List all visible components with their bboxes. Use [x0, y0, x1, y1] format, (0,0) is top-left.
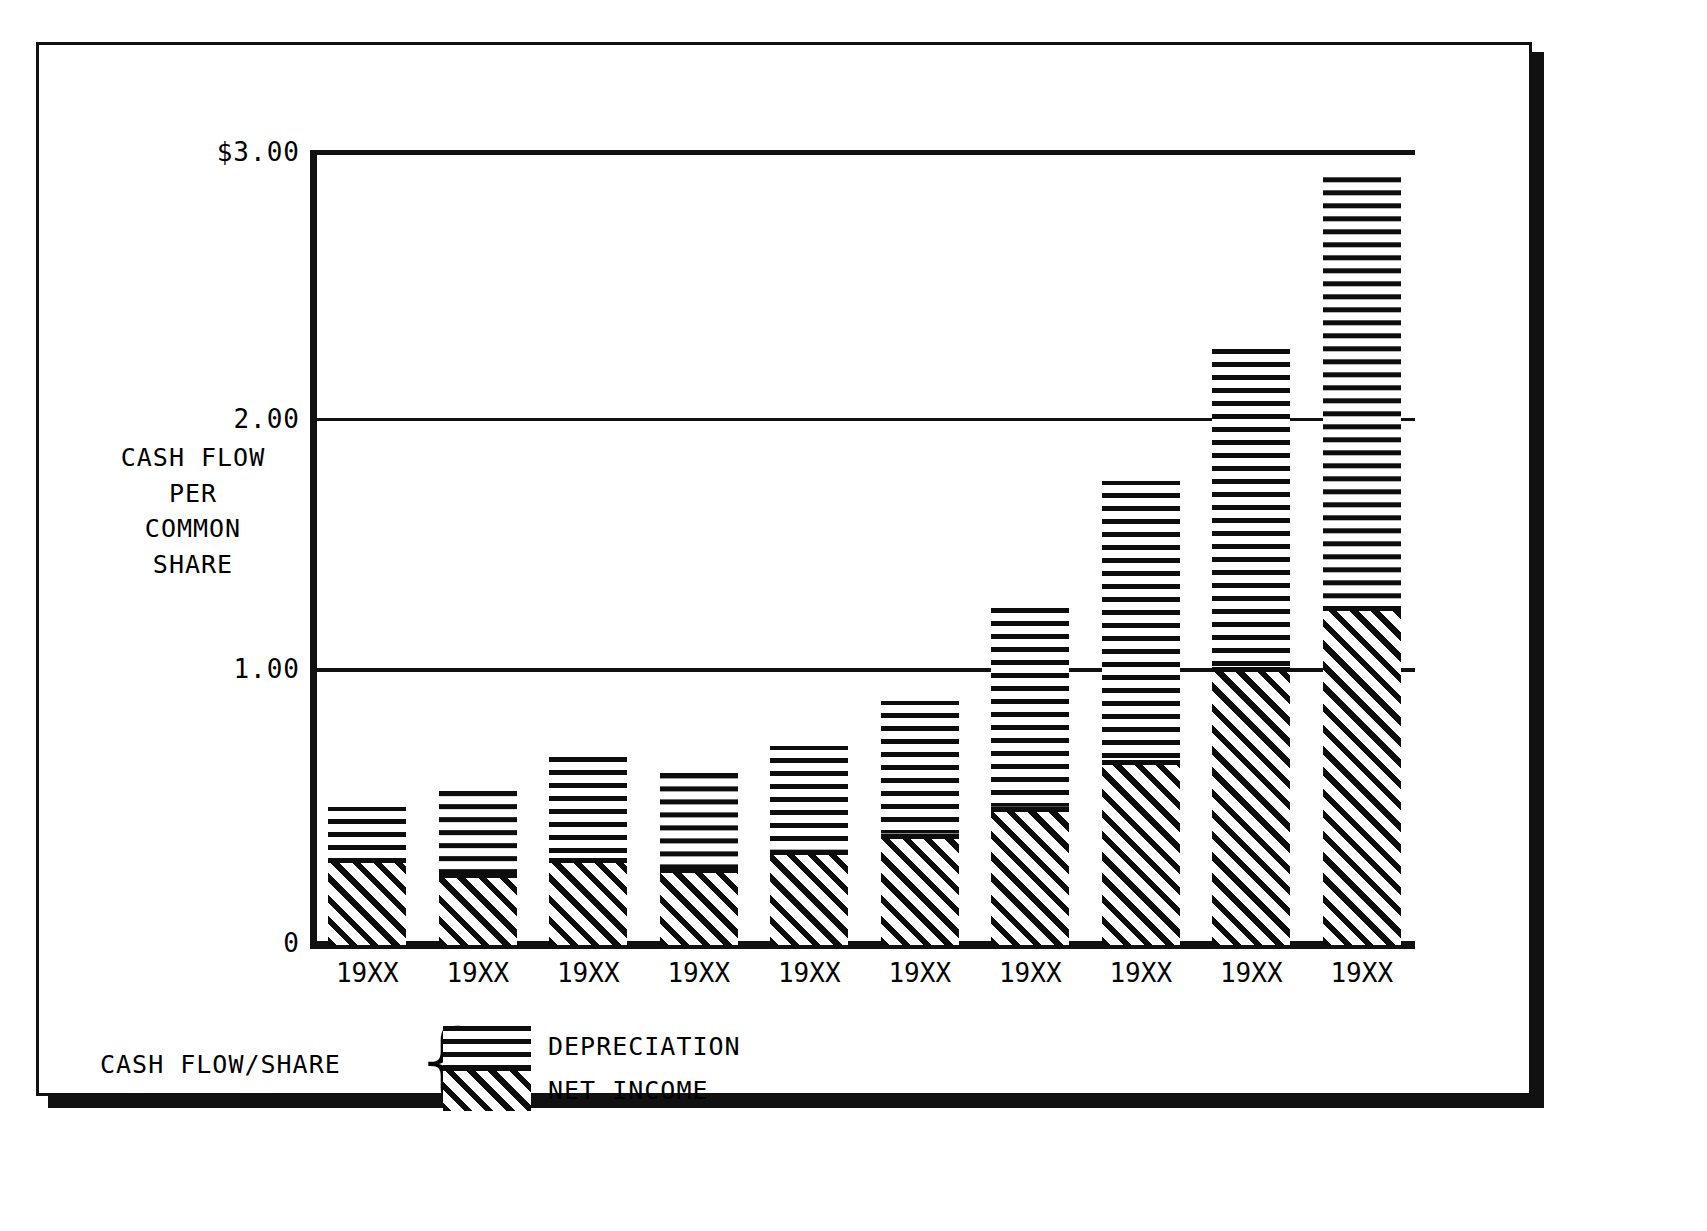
bar-6 — [881, 701, 959, 945]
legend-swatch-net-income-icon — [443, 1066, 531, 1111]
bar-chart-plot: $3.00 2.00 1.00 0 CASH FLOW PER COMMON S… — [0, 0, 1707, 1231]
bar-3-net-income-segment — [549, 858, 627, 945]
x-tick-label-5: 19XX — [754, 958, 864, 988]
bar-7-depreciation-segment — [991, 608, 1069, 807]
bar-9-net-income-segment — [1212, 667, 1290, 945]
bar-10 — [1323, 177, 1401, 946]
bar-1-depreciation-segment — [328, 807, 406, 857]
y-axis-title-line-2: PER — [78, 476, 308, 512]
bar-10-net-income-segment — [1323, 606, 1401, 945]
bar-1 — [328, 807, 406, 945]
bar-5 — [770, 746, 848, 945]
bar-5-depreciation-segment — [770, 746, 848, 849]
x-tick-label-2: 19XX — [423, 958, 533, 988]
bar-6-net-income-segment — [881, 834, 959, 945]
x-tick-label-9: 19XX — [1196, 958, 1306, 988]
y-tick-label-0: 0 — [125, 930, 300, 956]
bar-3-depreciation-segment — [549, 757, 627, 858]
bar-6-depreciation-segment — [881, 701, 959, 834]
bar-8 — [1102, 481, 1180, 945]
legend-title: CASH FLOW/SHARE — [100, 1050, 341, 1079]
bar-10-depreciation-segment — [1323, 177, 1401, 606]
bar-8-depreciation-segment — [1102, 481, 1180, 759]
y-axis-title-line-4: SHARE — [78, 547, 308, 583]
x-tick-label-7: 19XX — [975, 958, 1085, 988]
bar-4 — [660, 773, 738, 945]
bar-3 — [549, 757, 627, 945]
bar-1-net-income-segment — [328, 858, 406, 945]
legend-label-depreciation: DEPRECIATION — [548, 1032, 741, 1061]
bar-7 — [991, 608, 1069, 945]
bar-2 — [439, 791, 517, 945]
legend: CASH FLOW/SHARE { DEPRECIATION NET INCOM… — [100, 1018, 720, 1113]
y-tick-label-1: 1.00 — [125, 656, 300, 682]
bar-9-depreciation-segment — [1212, 349, 1290, 667]
x-tick-label-3: 19XX — [533, 958, 643, 988]
y-axis-title: CASH FLOW PER COMMON SHARE — [78, 440, 308, 582]
x-tick-label-8: 19XX — [1086, 958, 1196, 988]
legend-label-net-income: NET INCOME — [548, 1076, 709, 1105]
bar-4-net-income-segment — [660, 868, 738, 945]
bar-5-net-income-segment — [770, 850, 848, 945]
bar-2-depreciation-segment — [439, 791, 517, 873]
y-tick-label-2: 2.00 — [125, 406, 300, 432]
x-tick-label-10: 19XX — [1307, 958, 1417, 988]
x-tick-label-6: 19XX — [865, 958, 975, 988]
bar-group — [310, 150, 1415, 945]
legend-swatch-depreciation-icon — [443, 1026, 531, 1066]
bar-9 — [1212, 349, 1290, 945]
bar-4-depreciation-segment — [660, 773, 738, 868]
y-axis-title-line-3: COMMON — [78, 511, 308, 547]
y-tick-label-3: $3.00 — [125, 139, 300, 165]
bar-2-net-income-segment — [439, 873, 517, 945]
y-axis-title-line-1: CASH FLOW — [78, 440, 308, 476]
x-tick-label-1: 19XX — [312, 958, 422, 988]
bar-8-net-income-segment — [1102, 760, 1180, 946]
x-tick-label-4: 19XX — [644, 958, 754, 988]
bar-7-net-income-segment — [991, 807, 1069, 945]
